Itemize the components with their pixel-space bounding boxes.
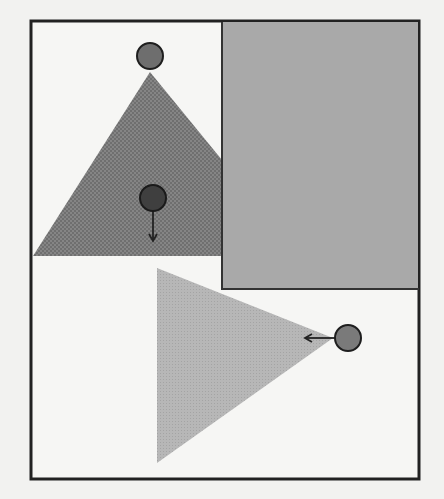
diagram-figure: [0, 0, 444, 499]
diagram-canvas: [0, 0, 444, 499]
right-circle: [335, 325, 361, 351]
inner-circle: [140, 185, 166, 211]
apex-circle: [137, 43, 163, 69]
gray-rectangle: [222, 22, 418, 288]
